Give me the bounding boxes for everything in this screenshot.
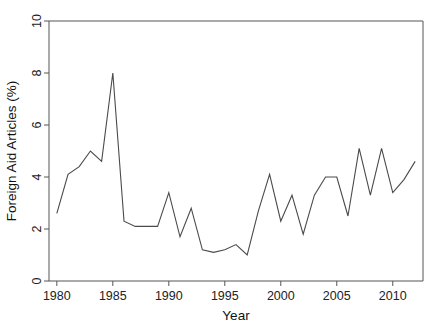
chart-figure: 0246810 1980198519901995200020052010 Yea… (0, 0, 435, 326)
x-tick-label: 1985 (99, 289, 127, 303)
x-axis-ticks (57, 281, 393, 286)
y-tick-label: 0 (30, 277, 44, 284)
data-series-line (57, 73, 415, 255)
plot-frame (49, 21, 423, 281)
x-axis-title: Year (222, 308, 250, 323)
x-axis-tick-labels: 1980198519901995200020052010 (43, 289, 407, 303)
x-tick-label: 1980 (43, 289, 71, 303)
y-tick-label: 10 (30, 14, 44, 28)
line-chart-plot: 0246810 1980198519901995200020052010 Yea… (0, 0, 435, 326)
y-axis-title: Foreign Aid Articles (%) (4, 81, 19, 221)
y-tick-label: 6 (30, 121, 44, 128)
y-axis-ticks (44, 21, 49, 281)
y-tick-label: 2 (30, 225, 44, 232)
x-tick-label: 1995 (211, 289, 239, 303)
x-tick-label: 1990 (155, 289, 183, 303)
axes: 0246810 1980198519901995200020052010 (30, 14, 424, 303)
x-tick-label: 2010 (379, 289, 407, 303)
y-tick-label: 4 (30, 173, 44, 180)
y-tick-label: 8 (30, 69, 44, 76)
y-axis-tick-labels: 0246810 (30, 14, 44, 284)
x-tick-label: 2005 (323, 289, 351, 303)
x-tick-label: 2000 (267, 289, 295, 303)
